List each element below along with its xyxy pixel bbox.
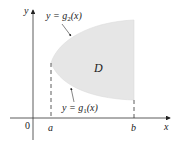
upper-curve-label: y = g2(x)	[45, 10, 82, 23]
tick-a-label: a	[48, 122, 53, 133]
region-d	[51, 20, 134, 100]
lower-curve-pointer	[71, 88, 74, 102]
lower-curve-label: y = g1(x)	[61, 102, 98, 115]
region-label: D	[93, 61, 103, 75]
origin-label: 0	[25, 120, 30, 131]
y-axis-label: y	[23, 5, 29, 16]
tick-b-label: b	[131, 122, 136, 133]
region-diagram: y x 0 a b D y = g2(x) y = g1(x)	[0, 0, 183, 143]
x-axis-label: x	[163, 121, 169, 132]
upper-curve-pointer	[62, 24, 71, 36]
